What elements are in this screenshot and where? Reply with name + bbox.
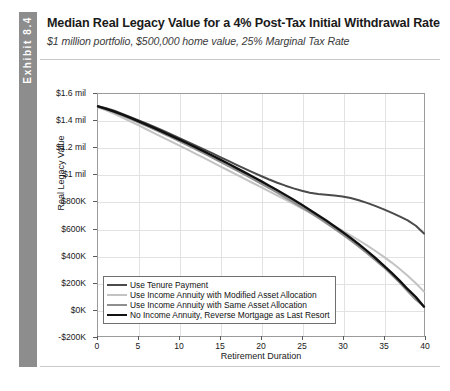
x-axis-tick-mark xyxy=(302,336,303,340)
legend-swatch xyxy=(107,294,127,296)
legend-label: Use Income Annuity with Modified Asset A… xyxy=(130,290,317,300)
chart-legend: Use Tenure PaymentUse Income Annuity wit… xyxy=(103,276,336,324)
page-subtitle: $1 million portfolio, $500,000 home valu… xyxy=(47,35,349,47)
x-axis-tick-label: 25 xyxy=(297,341,307,351)
y-axis-ticks: $1.6 mil$1.4 mil$1.2 mil$1 mil$800K$600K… xyxy=(40,93,93,337)
x-axis-tick-label: 20 xyxy=(256,341,266,351)
chart-header: Median Real Legacy Value for a 4% Post-T… xyxy=(40,12,440,60)
x-axis-tick-mark xyxy=(138,336,139,340)
x-axis-tick-mark xyxy=(220,336,221,340)
plot-area: Use Tenure PaymentUse Income Annuity wit… xyxy=(97,93,425,337)
legend-item[interactable]: Use Income Annuity with Modified Asset A… xyxy=(107,290,330,300)
x-axis-tick-label: 5 xyxy=(136,341,141,351)
y-axis-label: Real Legacy Value xyxy=(56,113,66,233)
chart-figure: $1.6 mil$1.4 mil$1.2 mil$1 mil$800K$600K… xyxy=(40,60,440,367)
x-axis-label: Retirement Duration xyxy=(97,351,425,361)
x-axis-tick-label: 15 xyxy=(215,341,225,351)
legend-swatch xyxy=(107,284,127,286)
y-axis-tick-label: $0K xyxy=(71,305,86,315)
x-axis-tick-mark xyxy=(97,336,98,340)
legend-swatch xyxy=(107,314,127,316)
legend-label: Use Tenure Payment xyxy=(130,280,208,290)
x-axis-tick-mark xyxy=(384,336,385,340)
x-axis-tick-label: 35 xyxy=(379,341,389,351)
legend-swatch xyxy=(107,304,127,306)
x-axis-tick-label: 10 xyxy=(174,341,184,351)
y-axis-tick-label: $1 mil xyxy=(63,169,86,179)
legend-item[interactable]: No Income Annuity, Reverse Mortgage as L… xyxy=(107,310,330,320)
legend-label: No Income Annuity, Reverse Mortgage as L… xyxy=(130,310,330,320)
x-axis-tick-label: 30 xyxy=(338,341,348,351)
exhibit-tab: Exhibit 8.4 xyxy=(19,12,37,367)
y-axis-tick-label: -$200K xyxy=(58,332,86,342)
legend-label: Use Income Annuity with Same Asset Alloc… xyxy=(130,300,307,310)
x-axis-tick-mark xyxy=(343,336,344,340)
x-axis-tick-label: 40 xyxy=(420,341,430,351)
y-axis-tick-label: $1.6 mil xyxy=(56,88,86,98)
legend-item[interactable]: Use Income Annuity with Same Asset Alloc… xyxy=(107,300,330,310)
exhibit-page: Exhibit 8.4 Median Real Legacy Value for… xyxy=(0,0,450,391)
x-axis-tick-mark xyxy=(179,336,180,340)
x-axis-tick-mark xyxy=(261,336,262,340)
y-axis-tick-label: $200K xyxy=(61,278,86,288)
page-title: Median Real Legacy Value for a 4% Post-T… xyxy=(47,16,440,30)
series-line xyxy=(98,107,424,291)
exhibit-tab-label: Exhibit 8.4 xyxy=(19,12,37,84)
x-axis-tick-label: 0 xyxy=(95,341,100,351)
x-axis-tick-mark xyxy=(425,336,426,340)
y-axis-tick-label: $400K xyxy=(61,251,86,261)
legend-item[interactable]: Use Tenure Payment xyxy=(107,280,330,290)
